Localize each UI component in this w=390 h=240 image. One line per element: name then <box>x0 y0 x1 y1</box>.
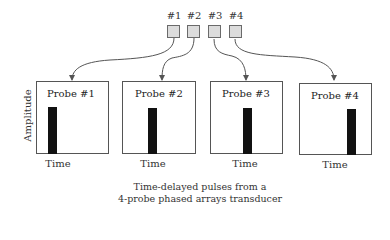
probe-4-title: Probe #4 <box>311 90 359 101</box>
probe-1-time-label: Time <box>36 158 80 169</box>
probe-2-title: Probe #2 <box>135 88 183 99</box>
arrow-probe-3 <box>214 39 246 80</box>
amplitude-axis-label: Amplitude <box>22 86 33 146</box>
probe-1-title: Probe #1 <box>47 88 95 99</box>
probe-4-time-label: Time <box>313 159 357 170</box>
probe-2-pulse <box>148 108 157 154</box>
figure-caption: Time-delayed pulses from a 4-probe phase… <box>95 181 305 205</box>
caption-line-1: Time-delayed pulses from a <box>95 181 305 193</box>
arrow-probe-1 <box>72 38 174 80</box>
probe-3-time-label: Time <box>223 158 267 169</box>
probe-3-title: Probe #3 <box>222 88 270 99</box>
arrow-probe-2 <box>162 38 194 80</box>
probe-2-time-label: Time <box>131 158 175 169</box>
probe-3-pulse <box>243 108 252 154</box>
caption-line-2: 4-probe phased arrays transducer <box>95 193 305 205</box>
arrow-probe-4 <box>235 39 334 80</box>
probe-4-pulse <box>347 109 356 155</box>
probe-1-pulse <box>48 107 57 154</box>
